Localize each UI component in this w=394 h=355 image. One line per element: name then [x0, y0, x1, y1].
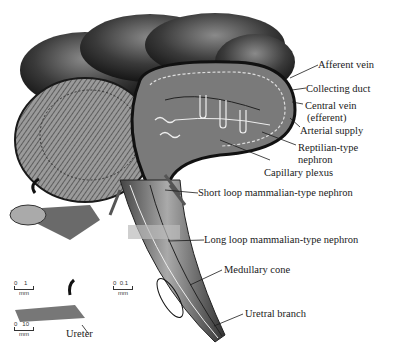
kidney-lobule-illustration — [0, 0, 394, 355]
label-reptilian-type: Reptilian-type — [298, 142, 358, 153]
label-collecting-duct: Collecting duct — [306, 83, 370, 94]
label-capillary-plexus: Capillary plexus — [264, 167, 333, 178]
label-ureter: Ureter — [66, 328, 93, 339]
label-arterial-supply: Arterial supply — [300, 125, 363, 136]
label-long-loop: Long loop mammalian-type nephron — [204, 234, 358, 245]
label-afferent-vein: Afferent vein — [318, 59, 374, 70]
label-reptilian-nephron: nephron — [298, 154, 332, 165]
label-central-vein-efferent: (efferent) — [307, 112, 346, 123]
label-uretral-branch: Uretral branch — [245, 308, 306, 319]
label-medullary-cone: Medullary cone — [224, 264, 290, 275]
label-short-loop: Short loop mammalian-type nephron — [198, 187, 353, 198]
medullary-cone-shape — [120, 180, 225, 342]
scale-bar-1mm: 0 1 mm — [14, 280, 34, 296]
label-central-vein: Central vein — [305, 100, 357, 111]
scale-bar-10mm: 0 10 mm — [14, 321, 34, 337]
scale-bar-0-1mm: 0 0.1 mm — [113, 280, 133, 296]
